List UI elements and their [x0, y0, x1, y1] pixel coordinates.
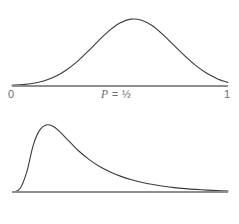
axis-tick-label-1-top: 1	[224, 89, 230, 100]
skewed-curve-plot	[0, 112, 239, 224]
distribution-curve-symmetric	[12, 19, 228, 85]
axis-tick-label-0-top: 0	[8, 89, 14, 100]
equals-sign-top: =	[112, 88, 119, 100]
probability-density-figure: 0 1 P = ½ 0 1 P = 0	[0, 0, 239, 224]
distribution-curve-skewed	[14, 125, 228, 192]
center-annotation-top: P = ½	[101, 89, 131, 100]
probability-value-top: ½	[122, 88, 131, 100]
probability-symbol-top: P	[101, 88, 109, 100]
chart-panel-bottom: 0 1 P = 0	[0, 112, 239, 224]
chart-panel-top: 0 1 P = ½	[0, 0, 239, 112]
